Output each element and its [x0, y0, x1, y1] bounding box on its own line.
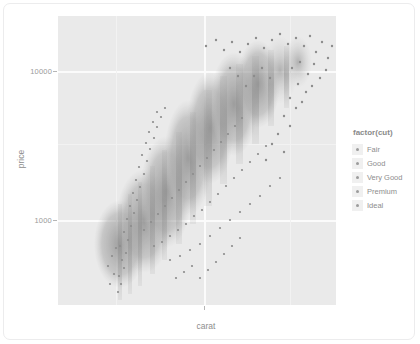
legend: factor(cut) Fair Good Very Good Premium …	[352, 128, 414, 212]
y-axis-title: price	[16, 144, 26, 174]
legend-key-icon	[352, 158, 363, 169]
x-tick-mark-1	[204, 306, 205, 310]
legend-key-icon	[352, 144, 363, 155]
legend-key-icon	[352, 172, 363, 183]
legend-item-fair[interactable]: Fair	[352, 142, 414, 156]
legend-item-label: Fair	[367, 145, 380, 154]
chart-screenshot: 10000 1000 price carat factor(cut) Fair …	[0, 0, 420, 344]
legend-title: factor(cut)	[353, 128, 414, 137]
y-tick-mark-1000	[53, 220, 57, 221]
legend-item-label: Premium	[367, 187, 397, 196]
y-tick-label-1000: 1000	[4, 216, 52, 225]
legend-item-label: Ideal	[367, 201, 383, 210]
legend-item-good[interactable]: Good	[352, 156, 414, 170]
plot-panel	[58, 16, 336, 305]
y-tick-label-10000: 10000	[4, 67, 52, 76]
legend-item-premium[interactable]: Premium	[352, 184, 414, 198]
legend-key-icon	[352, 200, 363, 211]
y-tick-mark-10000	[53, 71, 57, 72]
legend-key-icon	[352, 186, 363, 197]
x-axis-title: carat	[186, 321, 226, 331]
legend-item-label: Good	[367, 159, 385, 168]
legend-item-very-good[interactable]: Very Good	[352, 170, 414, 184]
legend-item-label: Very Good	[367, 173, 402, 182]
legend-item-ideal[interactable]: Ideal	[352, 198, 414, 212]
scatter-points-layer	[58, 16, 336, 305]
